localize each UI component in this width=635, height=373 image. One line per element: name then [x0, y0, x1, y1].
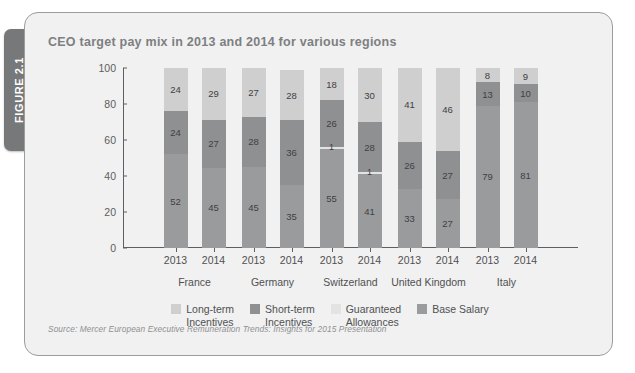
y-axis-tick-label: 20	[104, 206, 123, 218]
bar-segment-value: 1	[367, 167, 372, 177]
bar-segment-value: 13	[482, 89, 493, 100]
x-axis-tick-mark	[370, 248, 371, 252]
x-axis-year-label: 2013	[476, 254, 499, 266]
bar-segment-value: 8	[485, 70, 490, 81]
legend-item[interactable]: Base Salary	[417, 303, 489, 316]
figure-source-note: Source: Mercer European Executive Remune…	[48, 324, 387, 334]
y-axis-tick-label: 0	[110, 242, 123, 254]
stacked-bar[interactable]: 522424	[164, 68, 188, 248]
y-axis-tick-label: 40	[104, 170, 123, 182]
stacked-bar[interactable]: 81109	[514, 68, 538, 248]
bar-segment[interactable]: 79	[476, 106, 500, 248]
bar-segment[interactable]: 24	[164, 68, 188, 111]
bar-segment-value: 41	[364, 206, 375, 217]
stacked-bar[interactable]: 452729	[202, 68, 226, 248]
figure-title: CEO target pay mix in 2013 and 2014 for …	[48, 35, 397, 49]
bar-segment[interactable]: 24	[164, 111, 188, 154]
bar-segment[interactable]: 29	[202, 68, 226, 120]
bar-segment[interactable]: 35	[280, 185, 304, 248]
legend-swatch-icon	[171, 304, 181, 314]
bar-segment-value: 28	[248, 136, 259, 147]
bar-segment-value: 29	[208, 88, 219, 99]
bar-segment[interactable]: 26	[320, 100, 344, 147]
bar-segment-value: 36	[286, 147, 297, 158]
bar-segment-value: 9	[523, 71, 528, 82]
bar-segment[interactable]: 55	[320, 149, 344, 248]
bar-segment[interactable]: 28	[280, 70, 304, 120]
bar-segment-value: 24	[170, 84, 181, 95]
bar-segment[interactable]: 45	[242, 167, 266, 248]
bar-segment[interactable]: 81	[514, 102, 538, 248]
x-axis-tick-mark	[214, 248, 215, 252]
x-axis-group-label: Germany	[251, 276, 294, 288]
bar-segment[interactable]: 27	[436, 199, 460, 248]
bar-segment-value: 45	[208, 202, 219, 213]
stacked-bar[interactable]: 272746	[436, 68, 460, 248]
bar-segment-value: 28	[286, 90, 297, 101]
x-axis-tick-mark	[526, 248, 527, 252]
x-axis-year-label: 2013	[242, 254, 265, 266]
bar-segment-value: 26	[326, 118, 337, 129]
bar-segment[interactable]: 36	[280, 120, 304, 185]
bar-segment[interactable]: 28	[242, 117, 266, 167]
bar-segment[interactable]: 28	[358, 122, 382, 172]
bar-segment[interactable]: 27	[242, 68, 266, 117]
bar-segment[interactable]: 9	[514, 68, 538, 84]
bar-segment[interactable]: 27	[202, 120, 226, 168]
stacked-bar[interactable]: 79138	[476, 68, 500, 248]
chart-plot-area: 020406080100 522424452729452827353628551…	[75, 58, 585, 308]
legend-swatch-icon	[417, 304, 427, 314]
x-axis-tick-mark	[332, 248, 333, 252]
x-axis-tick-mark	[410, 248, 411, 252]
x-axis-group-label: France	[178, 276, 211, 288]
bar-segment-value: 26	[404, 160, 415, 171]
figure-panel: CEO target pay mix in 2013 and 2014 for …	[24, 12, 613, 356]
y-axis-tick-label: 100	[98, 62, 123, 74]
bar-segment-value: 30	[364, 90, 375, 101]
stacked-bar[interactable]: 4112830	[358, 68, 382, 248]
stacked-bar[interactable]: 452827	[242, 68, 266, 248]
figure-screen: FIGURE 2.1 CEO target pay mix in 2013 an…	[0, 0, 635, 373]
bar-segment[interactable]: 27	[436, 151, 460, 200]
x-axis-year-label: 2014	[436, 254, 459, 266]
bar-segment[interactable]: 18	[320, 68, 344, 100]
bar-segment-value: 46	[442, 104, 453, 115]
bar-segment[interactable]: 8	[476, 68, 500, 82]
bar-segment-value: 27	[442, 170, 453, 181]
x-axis-tick-mark	[488, 248, 489, 252]
x-axis-group-label: United Kingdom	[391, 276, 466, 288]
x-axis-group-label: Italy	[497, 276, 516, 288]
bar-segment-value: 79	[482, 171, 493, 182]
bar-segment-value: 28	[364, 142, 375, 153]
x-axis-tick-mark	[448, 248, 449, 252]
stacked-bar[interactable]: 353628	[280, 68, 304, 248]
bar-segment[interactable]: 41	[358, 174, 382, 248]
bar-segment-value: 27	[248, 87, 259, 98]
bar-segment[interactable]: 41	[398, 68, 422, 142]
bar-segment-value: 41	[404, 99, 415, 110]
bar-segment-value: 18	[326, 79, 337, 90]
x-axis-year-label: 2014	[514, 254, 537, 266]
bar-segment[interactable]: 52	[164, 154, 188, 248]
bar-segment[interactable]: 33	[398, 189, 422, 248]
bar-segment[interactable]: 30	[358, 68, 382, 122]
bar-segment-value: 52	[170, 196, 181, 207]
x-axis-year-label: 2013	[320, 254, 343, 266]
legend-label: Base Salary	[432, 303, 489, 316]
bar-groups: 5224244527294528273536285512618411283033…	[123, 68, 578, 248]
x-axis-year-label: 2014	[280, 254, 303, 266]
bar-segment-value: 24	[170, 127, 181, 138]
bar-segment-value: 55	[326, 193, 337, 204]
bar-segment[interactable]: 46	[436, 68, 460, 151]
legend-swatch-icon	[331, 304, 341, 314]
bar-segment[interactable]: 13	[476, 82, 500, 105]
x-axis-tick-mark	[292, 248, 293, 252]
bar-segment[interactable]: 26	[398, 142, 422, 189]
stacked-bar[interactable]: 5512618	[320, 68, 344, 248]
bar-segment[interactable]: 10	[514, 84, 538, 102]
chart-axes: 020406080100 522424452729452827353628551…	[123, 68, 578, 248]
stacked-bar[interactable]: 332641	[398, 68, 422, 248]
bar-segment-value: 10	[520, 88, 531, 99]
bar-segment[interactable]: 45	[202, 168, 226, 248]
bar-segment-value: 81	[520, 170, 531, 181]
